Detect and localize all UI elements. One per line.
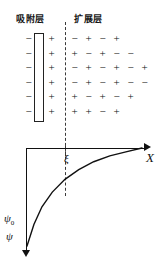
- psi0-subscript: 0: [11, 219, 15, 227]
- diffuse-layer-charge: −: [98, 76, 107, 89]
- surface-potential-label: ψ0: [4, 212, 14, 227]
- diffuse-layer-charge: −: [70, 76, 79, 89]
- diffuse-layer-charge: −: [70, 61, 79, 74]
- diffuse-layer-charge: +: [112, 76, 121, 89]
- diffuse-layer-charge: +: [84, 61, 93, 74]
- diffuse-layer-header: 扩展层: [74, 12, 103, 25]
- inner-positive-charge: +: [47, 76, 56, 89]
- charge-row: −+−+−+−+: [0, 61, 161, 74]
- diffuse-layer-charge: −: [140, 76, 149, 89]
- inner-negative-charge: −: [24, 105, 33, 118]
- inner-negative-charge: −: [24, 47, 33, 60]
- charge-row: −+++−+: [0, 105, 161, 118]
- inner-negative-charge: −: [24, 61, 33, 74]
- inner-positive-charge: +: [47, 47, 56, 60]
- inner-positive-charge: +: [47, 90, 56, 103]
- double-layer-figure: 吸附层 扩展层 −+−+−+−++−+−−−+−+−+−+−+−+−+−−−++…: [0, 0, 161, 262]
- diffuse-layer-charge: +: [126, 90, 135, 103]
- diffuse-layer-charge: +: [70, 47, 79, 60]
- inner-negative-charge: −: [24, 90, 33, 103]
- inner-negative-charge: −: [24, 32, 33, 45]
- diffuse-layer-charge: +: [98, 47, 107, 60]
- diffuse-layer-charge: +: [70, 90, 79, 103]
- potential-decay-curve: [0, 128, 161, 262]
- diffuse-layer-charge: +: [84, 105, 93, 118]
- charge-row: −++−+−−: [0, 47, 161, 60]
- inner-layer-divider: [43, 33, 44, 122]
- charge-lattice: −+−+−+−++−+−−−+−+−+−+−+−+−+−−−++−+−+−+++…: [0, 32, 161, 124]
- diffuse-layer-charge: −: [98, 105, 107, 118]
- diffuse-layer-charge: −: [70, 32, 79, 45]
- diffuse-layer-charge: +: [140, 61, 149, 74]
- inner-positive-charge: +: [47, 32, 56, 45]
- diffuse-layer-charge: +: [112, 32, 121, 45]
- x-axis-label: X: [146, 150, 154, 166]
- diffuse-layer-charge: +: [112, 105, 121, 118]
- diffuse-layer-charge: +: [98, 90, 107, 103]
- charge-row: −++−+−+: [0, 90, 161, 103]
- potential-plot: X ξ ψ0 ψ: [0, 128, 161, 262]
- inner-positive-charge: +: [47, 105, 56, 118]
- inner-positive-charge: +: [47, 61, 56, 74]
- charge-row: −+−+−+−−: [0, 76, 161, 89]
- diffuse-layer-charge: −: [112, 47, 121, 60]
- diffuse-layer-charge: −: [112, 90, 121, 103]
- diffuse-layer-charge: −: [84, 47, 93, 60]
- psi0-symbol: ψ: [4, 212, 11, 224]
- diffuse-layer-charge: −: [126, 76, 135, 89]
- inner-negative-charge: −: [24, 76, 33, 89]
- adsorption-layer-header: 吸附层: [16, 12, 45, 25]
- diffuse-layer-charge: −: [84, 90, 93, 103]
- diffuse-layer-charge: +: [112, 61, 121, 74]
- diffuse-layer-charge: −: [98, 61, 107, 74]
- diffuse-layer-charge: +: [84, 32, 93, 45]
- diffuse-layer-charge: +: [84, 76, 93, 89]
- zeta-boundary-label: ξ: [64, 152, 69, 164]
- charge-row: −+−+−+: [0, 32, 161, 45]
- diffuse-layer-charge: +: [70, 105, 79, 118]
- diffuse-layer-charge: −: [126, 61, 135, 74]
- potential-axis-label: ψ: [6, 230, 13, 242]
- diffuse-layer-charge: −: [126, 47, 135, 60]
- diffuse-layer-charge: −: [98, 32, 107, 45]
